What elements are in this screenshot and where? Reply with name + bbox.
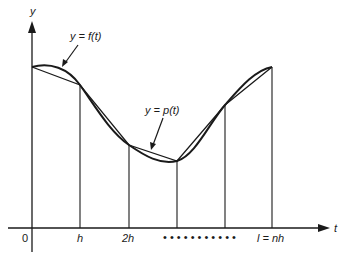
x-axis-label: t (334, 222, 338, 234)
origin-label: 0 (22, 232, 28, 244)
y-axis-label: y (29, 5, 37, 17)
p-label-pointer (153, 118, 163, 145)
tick-label-nh: l = nh (257, 232, 284, 244)
p-curve-label: y = p(t) (144, 104, 180, 116)
tick-label-2h: 2h (121, 232, 134, 244)
tick-label-h: h (77, 232, 83, 244)
f-label-pointer (65, 45, 78, 63)
x-axis-arrow-icon (318, 224, 330, 232)
interpolation-diagram: y t y = f(t) y = p(t) 0 h 2h • • • • • •… (0, 0, 344, 259)
y-axis-arrow-icon (28, 21, 36, 33)
ordinates (80, 67, 272, 228)
p-pointer-arrowhead-icon (150, 142, 156, 150)
ellipsis: • • • • • • • • • • • (163, 231, 236, 243)
f-curve-label: y = f(t) (69, 30, 102, 42)
